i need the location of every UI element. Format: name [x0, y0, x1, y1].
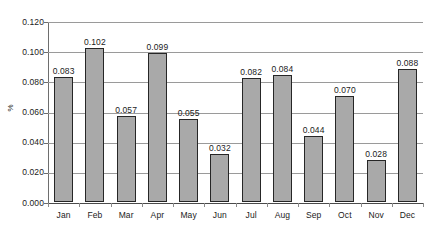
bar — [335, 96, 354, 202]
bar-value-label: 0.028 — [360, 150, 392, 159]
y-axis-tick-label: 0.100 — [0, 48, 44, 57]
bar-value-label: 0.032 — [204, 144, 236, 153]
y-axis-tick-label: 0.060 — [0, 108, 44, 117]
gridline — [48, 22, 423, 23]
y-axis-tick-label: 0.080 — [0, 78, 44, 87]
x-axis-tick-label: Dec — [391, 210, 423, 220]
x-axis-tickmark — [361, 203, 362, 207]
y-axis-tick-label: 0.020 — [0, 168, 44, 177]
bar-value-label: 0.099 — [141, 43, 173, 52]
bar — [273, 75, 292, 202]
x-axis-tick-label: Jun — [204, 210, 236, 220]
x-axis-tick-label: May — [173, 210, 205, 220]
x-axis-tick-label: Oct — [329, 210, 361, 220]
bar — [117, 116, 136, 202]
bar — [242, 78, 261, 202]
x-axis-tickmark — [173, 203, 174, 207]
x-axis-tick-label: Aug — [266, 210, 298, 220]
y-axis-tickmark — [44, 82, 48, 83]
bar-value-label: 0.044 — [298, 126, 330, 135]
bar-value-label: 0.057 — [110, 106, 142, 115]
y-axis-tickmark — [44, 113, 48, 114]
x-axis-tickmark — [79, 203, 80, 207]
bar-value-label: 0.082 — [235, 68, 267, 77]
x-axis-tick-label: Apr — [141, 210, 173, 220]
bar-chart: % 0.0000.0200.0400.0600.0800.1000.120 0.… — [0, 0, 436, 232]
bar — [85, 48, 104, 202]
bar-value-label: 0.070 — [329, 86, 361, 95]
x-axis-tick-label: Nov — [360, 210, 392, 220]
x-axis-tick-label: Mar — [110, 210, 142, 220]
y-axis-tickmark — [44, 173, 48, 174]
bar — [367, 160, 386, 202]
bar-value-label: 0.084 — [266, 65, 298, 74]
bar-value-label: 0.102 — [79, 38, 111, 47]
y-axis-tickmark — [44, 22, 48, 23]
bar-value-label: 0.055 — [173, 109, 205, 118]
x-axis-tickmark — [236, 203, 237, 207]
y-axis-tick-label: 0.040 — [0, 138, 44, 147]
x-axis-tickmark — [267, 203, 268, 207]
x-axis-tickmark — [329, 203, 330, 207]
x-axis-tick-label: Feb — [79, 210, 111, 220]
bar-value-label: 0.088 — [391, 59, 423, 68]
bar — [398, 69, 417, 202]
x-axis-tickmark — [111, 203, 112, 207]
y-axis-tick-label: 0.000 — [0, 199, 44, 208]
x-axis-tick-label: Jan — [48, 210, 80, 220]
bar — [54, 77, 73, 202]
y-axis-tickmark — [44, 52, 48, 53]
y-axis-tick-label: 0.120 — [0, 18, 44, 27]
bar — [179, 119, 198, 202]
x-axis-tickmark — [392, 203, 393, 207]
x-axis-tick-label: Sep — [298, 210, 330, 220]
x-axis-tickmark — [48, 203, 49, 207]
x-axis-tickmark — [204, 203, 205, 207]
bar — [210, 154, 229, 202]
x-axis-tick-label: Jul — [235, 210, 267, 220]
y-axis-tickmark — [44, 143, 48, 144]
x-axis-tick-labels: JanFebMarAprMayJunJulAugSepOctNovDec — [48, 210, 423, 224]
x-axis-tickmark — [142, 203, 143, 207]
bar — [304, 136, 323, 202]
y-axis-tick-labels: 0.0000.0200.0400.0600.0800.1000.120 — [0, 0, 44, 232]
x-axis-tickmark — [423, 203, 424, 207]
plot-area: 0.0830.1020.0570.0990.0550.0320.0820.084… — [48, 22, 423, 203]
bar-value-label: 0.083 — [48, 67, 80, 76]
x-axis-tickmark — [298, 203, 299, 207]
bar — [148, 53, 167, 202]
